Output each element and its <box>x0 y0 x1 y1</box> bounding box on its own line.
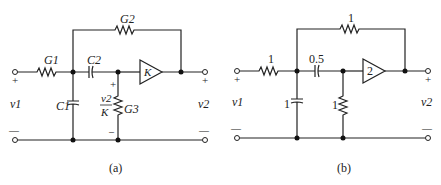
label-c1: C1 <box>56 99 70 113</box>
circuit-b: 1 1 0.5 1 1 2 + v1 — + v2 — (b) <box>230 11 433 175</box>
output-plus: + <box>202 74 208 86</box>
node <box>295 69 300 74</box>
node <box>341 136 346 141</box>
node <box>116 138 121 143</box>
label-g3: G3 <box>124 102 139 116</box>
input-terminal-bottom <box>13 138 18 143</box>
resistor-g1 <box>18 68 74 76</box>
caption-b: (b) <box>337 161 351 175</box>
input-terminal-bottom <box>235 136 240 141</box>
label-v2: v2 <box>421 95 432 109</box>
capacitor-1-shunt <box>291 71 303 138</box>
circuit-a: G1 G2 C2 C1 G3 K v2 K + – + v1 — + v2 — … <box>8 12 210 175</box>
output-plus: + <box>425 73 431 85</box>
node <box>116 70 121 75</box>
input-minus: — <box>8 125 20 136</box>
label-node-k: K <box>100 106 109 118</box>
output-minus: — <box>198 125 210 136</box>
output-terminal-bottom <box>203 138 208 143</box>
label-r-shunt: 1 <box>332 98 338 112</box>
node-minus: – <box>108 126 115 137</box>
label-c2: C2 <box>87 53 101 67</box>
node <box>71 138 76 143</box>
input-minus: — <box>230 123 242 134</box>
label-gain: 2 <box>367 64 373 78</box>
node <box>403 69 408 74</box>
label-r-series: 1 <box>268 52 274 66</box>
label-r-feedback: 1 <box>348 11 354 25</box>
caption-a: (a) <box>109 161 122 175</box>
circuit-diagrams: G1 G2 C2 C1 G3 K v2 K + – + v1 — + v2 — … <box>0 0 441 185</box>
capacitor-c2 <box>73 66 118 78</box>
node <box>179 70 184 75</box>
output-terminal-bottom <box>426 136 431 141</box>
resistor-1-shunt <box>339 71 347 138</box>
input-plus: + <box>234 73 240 85</box>
node <box>295 136 300 141</box>
label-g2: G2 <box>120 12 135 26</box>
capacitor-0.5 <box>297 65 343 77</box>
label-c-series: 0.5 <box>309 52 324 66</box>
input-plus: + <box>12 74 18 86</box>
output-minus: — <box>421 123 433 134</box>
label-v2: v2 <box>198 97 209 111</box>
label-c-shunt: 1 <box>284 97 290 111</box>
label-g1: G1 <box>44 53 59 67</box>
label-v1: v1 <box>232 95 243 109</box>
resistor-1-series <box>240 67 298 75</box>
label-k: K <box>143 66 152 78</box>
label-node-v2: v2 <box>101 92 112 104</box>
label-v1: v1 <box>10 97 21 111</box>
node <box>71 70 76 75</box>
node <box>341 69 346 74</box>
node-plus: + <box>110 78 116 90</box>
